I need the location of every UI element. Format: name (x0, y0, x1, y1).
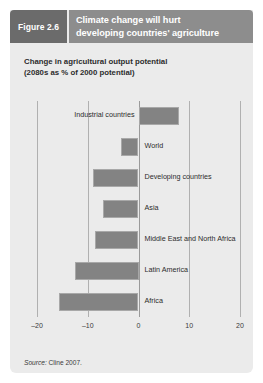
bar-row: World (20, 132, 243, 163)
chart-subtitle: Change in agricultural output potential … (24, 57, 239, 78)
figure-title-line-2: developing countries' agriculture (76, 27, 253, 40)
bar (75, 262, 138, 280)
bar-row: Latin America (20, 256, 243, 287)
x-axis-tick-label: –20 (31, 322, 43, 329)
bar-row: Africa (20, 287, 243, 318)
figure-title-line-1: Climate change will hurt (76, 14, 253, 27)
chart-subtitle-line-2: (2080s as % of 2000 potential) (24, 68, 239, 79)
figure-header: Figure 2.6 Climate change will hurt deve… (10, 10, 253, 43)
chart-canvas: –20–1001020Industrial countriesWorldDeve… (20, 94, 243, 336)
bar-category-label: Latin America (145, 265, 189, 274)
bar (95, 231, 138, 249)
bar-category-label: Middle East and North Africa (145, 234, 236, 243)
chart-subtitle-line-1: Change in agricultural output potential (24, 57, 239, 68)
source-word: Source: (24, 359, 47, 366)
figure-number-badge: Figure 2.6 (10, 10, 67, 43)
bar (93, 169, 139, 187)
chart-source: Source: Cline 2007. (24, 359, 82, 366)
chart-plot-area: –20–1001020Industrial countriesWorldDeve… (10, 86, 253, 336)
bar (139, 107, 180, 125)
bar (121, 138, 139, 156)
bar-row: Developing countries (20, 163, 243, 194)
source-citation: Cline 2007. (49, 359, 82, 366)
bar (59, 293, 139, 311)
bar-category-label: Africa (145, 296, 163, 305)
x-axis-tick-label: 10 (185, 322, 193, 329)
bar-category-label: World (145, 141, 164, 150)
bar-row: Asia (20, 194, 243, 225)
x-axis-tick-label: –10 (82, 322, 94, 329)
bar (103, 200, 139, 218)
x-axis-tick-label: 20 (236, 322, 244, 329)
bar-category-label: Developing countries (145, 172, 212, 181)
bar-category-label: Industrial countries (20, 110, 135, 119)
figure-number-label: Figure 2.6 (18, 22, 59, 32)
figure-card: Figure 2.6 Climate change will hurt deve… (10, 10, 253, 373)
bar-row: Middle East and North Africa (20, 225, 243, 256)
x-axis-tick-label: 0 (137, 322, 141, 329)
bar-row: Industrial countries (20, 101, 243, 132)
figure-title-banner: Climate change will hurt developing coun… (69, 10, 253, 43)
bar-category-label: Asia (145, 203, 159, 212)
